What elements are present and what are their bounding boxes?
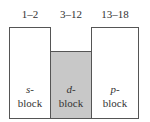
p-block-label: p- block [92,82,138,110]
d-block-word: block [51,96,91,110]
p-block: p- block [91,27,139,119]
group-range-label-p: 13–18 [94,8,136,20]
p-block-word: block [92,96,138,110]
s-block-letter: s- [10,82,50,96]
s-block-label: s- block [10,82,50,110]
s-block: s- block [9,27,51,119]
p-block-letter: p- [92,82,138,96]
group-range-label-s: 1–2 [9,8,51,20]
d-block-letter: d- [51,82,91,96]
d-block: d- block [50,51,92,119]
group-range-label-d: 3–12 [50,8,92,20]
d-block-label: d- block [51,82,91,110]
s-block-word: block [10,96,50,110]
